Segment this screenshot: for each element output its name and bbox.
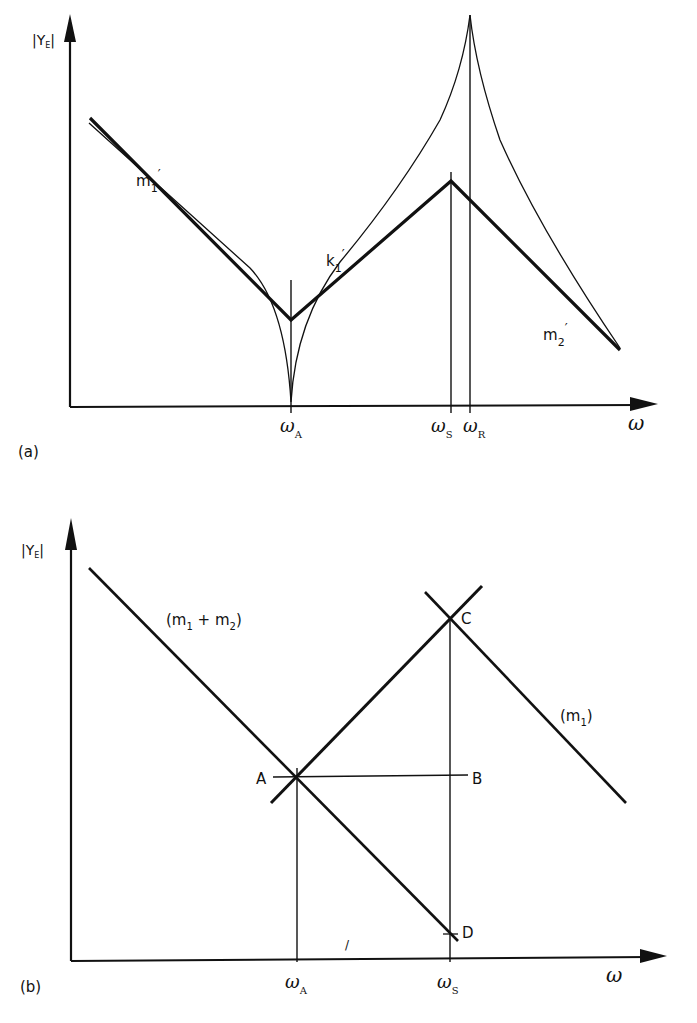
line-m1-plus-m2 xyxy=(89,568,458,941)
stray-mark: / xyxy=(345,938,350,952)
y-axis-arrow-icon xyxy=(65,518,77,550)
tick-omega-a-b: ωA xyxy=(285,971,308,996)
point-a-label: A xyxy=(256,770,267,788)
y-axis-arrow-icon xyxy=(64,14,76,42)
y-axis-label-b: |YE| xyxy=(21,542,44,560)
x-axis-arrow-icon xyxy=(630,397,658,411)
x-axis-a xyxy=(70,405,640,407)
y-axis-label-a: |YE| xyxy=(32,32,55,50)
x-axis-arrow-icon xyxy=(640,949,667,963)
label-k1prime: k1′ xyxy=(326,246,345,275)
point-b-label: B xyxy=(472,770,482,788)
tick-omega-r: ωR xyxy=(463,415,486,440)
asymptote-a xyxy=(90,118,620,350)
point-d-label: D xyxy=(462,924,474,942)
tick-omega-s-b: ωS xyxy=(437,971,459,996)
x-axis-label-b: ω xyxy=(606,963,622,987)
line-a-b xyxy=(273,775,468,777)
exact-curve-a xyxy=(89,15,620,402)
label-m1-plus-m2: (m1 + m2) xyxy=(166,611,242,632)
figure-canvas: m1′ k1′ m2′ |YE| ωA ωS ωR ω (a) (m1 + m2… xyxy=(0,0,697,1023)
panel-label-a: (a) xyxy=(18,443,39,461)
panel-b: (m1 + m2) (m1) A B C D / |YE| ωA ωS ω (b… xyxy=(20,518,667,996)
label-m2prime: m2′ xyxy=(543,320,568,349)
tick-omega-a: ωA xyxy=(280,415,303,440)
x-axis-b xyxy=(71,957,650,961)
label-m1: (m1) xyxy=(560,707,593,728)
panel-label-b: (b) xyxy=(20,978,41,996)
tick-omega-s: ωS xyxy=(431,415,453,440)
line-m1 xyxy=(425,592,626,803)
label-m1prime: m1′ xyxy=(136,166,161,195)
panel-a: m1′ k1′ m2′ |YE| ωA ωS ωR ω (a) xyxy=(18,14,658,461)
point-c-label: C xyxy=(461,610,471,628)
x-axis-label-a: ω xyxy=(628,411,644,435)
